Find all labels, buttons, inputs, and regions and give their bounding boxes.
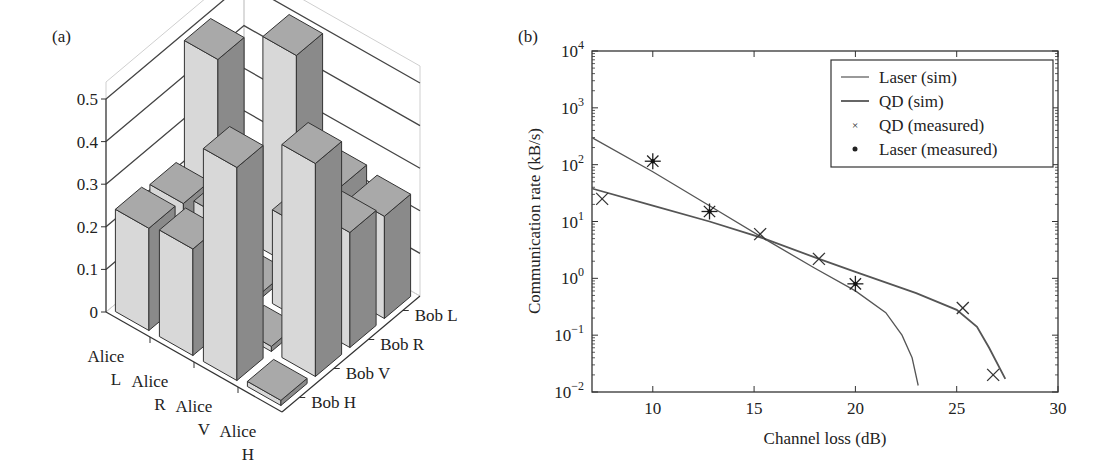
panel-b-legend: Laser (sim)QD (sim)×QD (measured)Laser (… xyxy=(831,60,1053,167)
x-tick-label: 10 xyxy=(644,399,661,418)
x-tick-label: 30 xyxy=(1050,399,1067,418)
legend-x-marker: × xyxy=(852,119,858,131)
qd-measured-marker xyxy=(957,302,969,314)
panel-b-x-axis-label: Channel loss (dB) xyxy=(764,429,887,448)
qd-measured-marker xyxy=(987,369,999,381)
legend-asterisk-marker xyxy=(853,147,858,152)
laser-measured-marker xyxy=(645,153,661,169)
y-tick-label: 102 xyxy=(561,152,584,175)
series-line xyxy=(592,138,918,386)
y-tick-label: 100 xyxy=(561,265,584,288)
qd-measured-marker xyxy=(596,193,608,205)
y-tick-label: 10−1 xyxy=(554,322,584,345)
panel-b-series xyxy=(592,138,1005,386)
y-tick-label: 101 xyxy=(561,209,584,232)
legend-label: QD (sim) xyxy=(879,92,944,111)
qd-measured-marker xyxy=(813,253,825,265)
legend-label: Laser (sim) xyxy=(879,68,957,87)
x-tick-label: 20 xyxy=(847,399,864,418)
laser-measured-marker xyxy=(702,203,718,219)
laser-measured-marker xyxy=(847,276,863,292)
panel-b-y-axis-label: Communication rate (kB/s) xyxy=(525,128,544,314)
y-tick-label: 10−2 xyxy=(554,379,584,402)
panel-b-log-line-chart: (b) 101520253010−210−1100101102103104 La… xyxy=(0,0,1120,472)
legend-label: Laser (measured) xyxy=(879,140,997,159)
series-line xyxy=(592,189,1005,379)
y-tick-label: 103 xyxy=(561,95,584,118)
x-tick-label: 25 xyxy=(948,399,965,418)
panel-b-label: (b) xyxy=(518,27,538,46)
y-tick-label: 104 xyxy=(561,38,584,61)
x-tick-label: 15 xyxy=(746,399,763,418)
legend-label: QD (measured) xyxy=(879,116,984,135)
